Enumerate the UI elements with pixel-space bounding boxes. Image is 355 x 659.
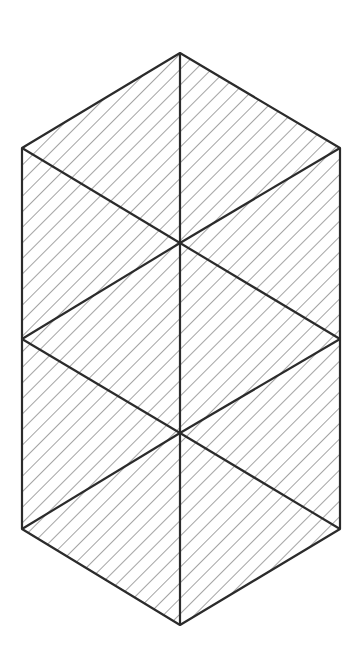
hatch-fill <box>0 0 355 659</box>
diagram-canvas <box>0 0 355 659</box>
hexagonal-prism-drawing <box>0 0 355 659</box>
